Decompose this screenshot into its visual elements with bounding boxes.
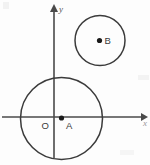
- figure-labels: O A B y x: [0, 0, 150, 165]
- label-point-b: B: [105, 35, 111, 46]
- label-origin: O: [42, 120, 49, 131]
- label-x-axis: x: [142, 118, 147, 128]
- label-point-a: A: [66, 120, 73, 131]
- label-y-axis: y: [58, 4, 63, 14]
- geometry-figure: O A B y x: [0, 0, 150, 165]
